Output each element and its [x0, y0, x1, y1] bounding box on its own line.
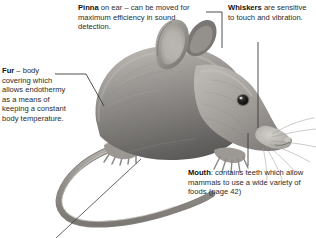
callout-mouth-term: Mouth	[188, 168, 211, 177]
callout-pinna: Pinna on ear – can be moved for maximum …	[78, 3, 210, 32]
callout-mouth: Mouth: contains teeth which allow mammal…	[188, 168, 314, 197]
callout-whiskers: Whiskers are sensitive to touch and vibr…	[228, 3, 314, 22]
callout-pinna-term: Pinna	[78, 3, 99, 12]
figure-diagram: Pinna on ear – can be moved for maximum …	[0, 0, 316, 238]
callout-fur-term: Fur	[2, 66, 14, 75]
callout-fur: Fur – body covering which allows endothe…	[2, 66, 68, 124]
eye	[237, 94, 250, 106]
callout-whiskers-term: Whiskers	[228, 3, 262, 12]
